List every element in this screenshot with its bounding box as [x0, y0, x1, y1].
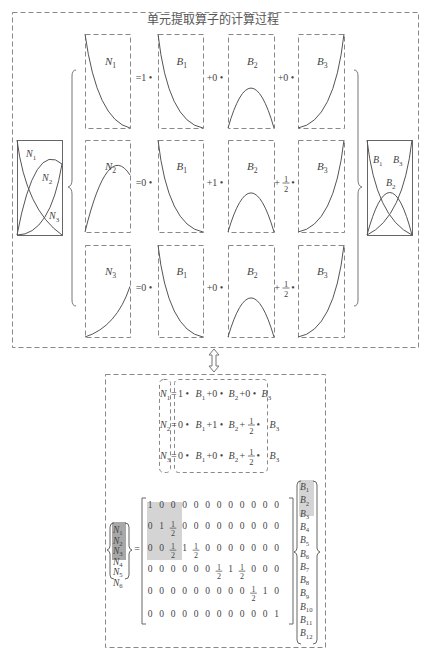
- rhs-entry: B10: [300, 602, 313, 613]
- equation-lhs: N1: [159, 388, 171, 402]
- matrix-cell: 1: [263, 586, 268, 596]
- svg-text:2: 2: [171, 551, 175, 560]
- left-panel-label: N2: [41, 172, 53, 186]
- matrix-cell: 0: [263, 543, 268, 553]
- matrix-cell: 0: [171, 586, 176, 596]
- basis-curve: [158, 245, 203, 337]
- matrix-cell: 0: [194, 586, 199, 596]
- matrix-cell: 0: [182, 609, 187, 619]
- matrix-cell: 0: [205, 543, 210, 553]
- right-panel-label: B2: [386, 177, 396, 191]
- matrix-cell: 0: [205, 521, 210, 531]
- matrix-cell: 0: [182, 500, 187, 510]
- matrix-cell: 0: [263, 521, 268, 531]
- basis-function-grid: N1B1B2B3=1 •+0 •+0 •N2B1B2B3=0 •+1 •+12•…: [85, 34, 345, 338]
- matrix-cell: 0: [274, 521, 279, 531]
- matrix-cell: 0: [171, 609, 176, 619]
- matrix-cell: 0: [263, 500, 268, 510]
- basis-box: [229, 246, 275, 338]
- svg-text:2: 2: [249, 426, 253, 436]
- matrix-cell: 0: [159, 586, 164, 596]
- matrix-cell: 0: [205, 586, 210, 596]
- matrix-equation: N1N2N3N4N5N6=100000000000011200000000000…: [107, 480, 320, 644]
- svg-text:1: 1: [171, 520, 175, 529]
- equation-lhs: N2: [159, 419, 171, 433]
- matrix-cell: 0: [148, 586, 153, 596]
- svg-text:+: +: [274, 282, 280, 293]
- matrix-cell: 0: [182, 586, 187, 596]
- rhs-entry: B12: [300, 628, 312, 639]
- matrix-cell: 0: [159, 609, 164, 619]
- matrix-cell: 0: [217, 521, 222, 531]
- diagram-title: 单元提取算子的计算过程: [147, 12, 279, 27]
- matrix-cell: 0: [159, 564, 164, 574]
- matrix-cell: 0: [251, 543, 256, 553]
- basis-box: [229, 141, 275, 233]
- basis-curve: [228, 193, 274, 232]
- matrix-cell: 0: [240, 521, 245, 531]
- matrix-cell: 0: [159, 500, 164, 510]
- basis-label: B2: [247, 265, 258, 280]
- svg-text:B1: B1: [196, 419, 206, 433]
- svg-text:+0 •: +0 •: [240, 388, 257, 399]
- matrix-cell: 0: [274, 500, 279, 510]
- matrix-cell: 0: [217, 543, 222, 553]
- svg-text:+0 •: +0 •: [207, 282, 224, 293]
- matrix-cell: 0: [205, 564, 210, 574]
- svg-text:2: 2: [217, 572, 221, 581]
- svg-text:B3: B3: [270, 419, 280, 433]
- left-n-basis-panel: N1N2N3: [17, 140, 63, 236]
- matrix-cell: 0: [171, 500, 176, 510]
- matrix-cell: 0: [274, 543, 279, 553]
- svg-text:=: =: [134, 543, 140, 554]
- basis-label: N3: [104, 265, 116, 280]
- rhs-entry: B11: [300, 615, 312, 626]
- equation-lhs: N3: [159, 450, 171, 464]
- matrix-cell: 1: [159, 521, 164, 531]
- basis-curve: [85, 286, 130, 337]
- matrix-cell: 0: [228, 543, 233, 553]
- svg-text:•: •: [291, 282, 295, 293]
- svg-text:=1 •: =1 •: [136, 72, 153, 83]
- svg-text:B2: B2: [229, 450, 239, 464]
- svg-text:0 •: 0 •: [178, 419, 189, 430]
- basis-curve: [228, 298, 274, 337]
- svg-text:0 •: 0 •: [178, 450, 189, 461]
- svg-text:+: +: [274, 177, 280, 188]
- svg-text:1: 1: [249, 416, 253, 426]
- svg-text:1: 1: [284, 174, 288, 184]
- matrix-cell: 0: [159, 543, 164, 553]
- svg-text:=0 •: =0 •: [136, 282, 153, 293]
- right-b-basis-panel: B1B3B2: [367, 140, 413, 236]
- svg-text:2: 2: [249, 457, 253, 467]
- svg-text:2: 2: [251, 594, 255, 603]
- svg-text:•: •: [291, 177, 295, 188]
- matrix-cell: 0: [240, 586, 245, 596]
- svg-text:+0 •: +0 •: [278, 72, 295, 83]
- svg-text:B3: B3: [270, 450, 280, 464]
- basis-curve: [228, 88, 274, 128]
- matrix-cell: 0: [148, 521, 153, 531]
- svg-text:1: 1: [284, 279, 288, 289]
- matrix-cell: 0: [251, 609, 256, 619]
- svg-text:1: 1: [217, 563, 221, 572]
- lhs-entry: N6: [112, 578, 123, 589]
- matrix-cell: 0: [240, 500, 245, 510]
- element-extraction-operator-diagram: 单元提取算子的计算过程 N1N2N3 B1B3B2 N1B1B2B3=1 •+0…: [0, 0, 426, 652]
- basis-box: [299, 35, 345, 129]
- svg-text:B1: B1: [196, 450, 206, 464]
- left-panel-label: N3: [48, 210, 60, 224]
- matrix-cell: 0: [217, 609, 222, 619]
- double-vertical-arrow-icon: [209, 349, 219, 372]
- basis-box: [86, 141, 131, 233]
- right-panel-label: B1: [373, 154, 383, 168]
- basis-curve: [298, 34, 344, 128]
- svg-text:=: =: [171, 388, 177, 399]
- matrix-cell: 0: [274, 586, 279, 596]
- basis-label: B1: [177, 160, 188, 175]
- svg-text:+0 •: +0 •: [207, 450, 224, 461]
- matrix-cell: 0: [263, 609, 268, 619]
- basis-curve: [85, 34, 130, 128]
- basis-label: B2: [247, 160, 258, 175]
- basis-box: [229, 35, 275, 129]
